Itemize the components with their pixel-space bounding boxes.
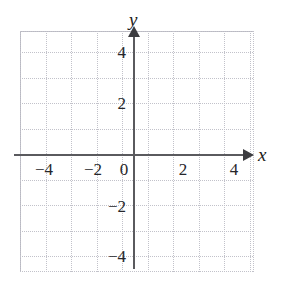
grid-vline [46, 31, 47, 272]
y-tick-label-pos2: 2 [98, 95, 126, 112]
x-axis-label: x [258, 145, 266, 164]
y-axis-label: y [129, 10, 137, 29]
grid-hline [20, 231, 254, 232]
x-axis-arrow-icon [243, 149, 254, 161]
x-tick-label-neg2: −2 [84, 161, 102, 178]
grid-hline [20, 103, 254, 104]
y-tick-label-pos4: 4 [98, 44, 126, 61]
grid-vline [71, 31, 72, 272]
y-axis-line [133, 33, 135, 269]
x-tick-label-pos4: 4 [230, 161, 239, 178]
y-tick-label-neg4: −4 [92, 248, 126, 265]
grid-hline [20, 271, 254, 272]
grid-hline [20, 78, 254, 79]
grid-background [20, 31, 254, 272]
grid-vline [20, 31, 21, 272]
grid-hline [20, 205, 254, 206]
grid-hline [20, 180, 254, 181]
grid-vline [97, 31, 98, 272]
x-tick-label-zero: 0 [120, 161, 129, 178]
grid-hline [20, 256, 254, 257]
grid-vline [173, 31, 174, 272]
grid-vline [224, 31, 225, 272]
grid-vline [199, 31, 200, 272]
grid-vline [122, 31, 123, 272]
grid-hline [20, 129, 254, 130]
x-tick-label-neg4: −4 [35, 161, 53, 178]
coordinate-plane-figure: −4 −2 0 2 4 4 2 −2 −4 y x [0, 0, 283, 282]
grid-vline [148, 31, 149, 272]
grid-hline [20, 52, 254, 53]
x-tick-label-pos2: 2 [179, 161, 188, 178]
y-tick-label-neg2: −2 [92, 198, 126, 215]
